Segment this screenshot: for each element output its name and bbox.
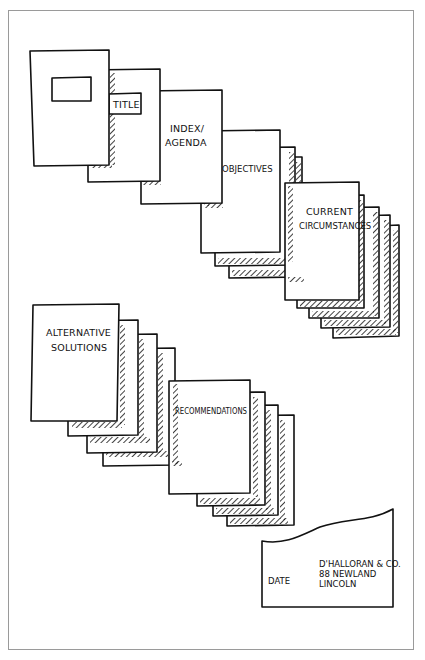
index-label-line2: AGENDA [165, 137, 207, 148]
cover-label-window [52, 77, 91, 101]
current-label-line1: CURRENT [306, 206, 353, 217]
current-circumstances-page: CURRENT CIRCUMSTANCES [285, 182, 371, 300]
recommendations-page: RECOMMENDATIONS [169, 380, 250, 494]
index-label-line1: INDEX/ [170, 123, 205, 134]
alternative-label-line1: ALTERNATIVE [46, 327, 111, 338]
title-label: TITLE [112, 99, 140, 110]
address-line-3: LINCOLN [319, 579, 356, 589]
address-line-1: D'HALLORAN & CO. [319, 559, 401, 569]
recommendations-label: RECOMMENDATIONS [175, 406, 247, 416]
alternative-label-line2: SOLUTIONS [51, 342, 107, 353]
cover-page [30, 50, 109, 166]
report-structure-diagram: CURRENT CIRCUMSTANCES OBJECTIVES INDEX/ … [0, 0, 425, 660]
address-line-2: 88 NEWLAND [319, 569, 377, 579]
alternative-solutions-page: ALTERNATIVE SOLUTIONS [31, 304, 119, 421]
date-label: DATE [268, 576, 290, 586]
current-label-line2: CIRCUMSTANCES [299, 221, 371, 231]
objectives-label: OBJECTIVES [222, 164, 273, 174]
